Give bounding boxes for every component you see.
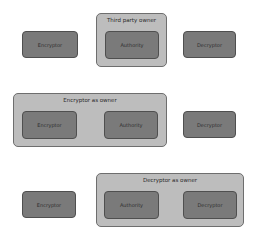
third-party-owner-group: Third party owner Authority — [96, 13, 167, 67]
encryptor-as-owner-group: Encryptor as owner Encryptor Authority — [13, 93, 167, 147]
decryptor-as-owner-group: Decryptor as owner Authority Decryptor — [96, 173, 244, 227]
encryptor-label: Encryptor — [37, 122, 61, 128]
group-title: Encryptor as owner — [14, 97, 166, 103]
encryptor-node: Encryptor — [22, 31, 78, 58]
decryptor-node: Decryptor — [183, 191, 237, 219]
decryptor-node: Decryptor — [183, 31, 236, 58]
authority-node: Authority — [104, 111, 158, 139]
group-title: Third party owner — [97, 17, 166, 23]
decryptor-node: Decryptor — [183, 111, 236, 138]
encryptor-label: Encryptor — [37, 202, 61, 208]
decryptor-label: Decryptor — [197, 122, 222, 128]
decryptor-label: Decryptor — [197, 42, 222, 48]
encryptor-label: Encryptor — [38, 42, 62, 48]
authority-node: Authority — [104, 191, 159, 219]
encryptor-node: Encryptor — [22, 191, 76, 218]
authority-label: Authority — [120, 202, 143, 208]
authority-label: Authority — [120, 42, 143, 48]
encryptor-node: Encryptor — [22, 111, 77, 139]
decryptor-label: Decryptor — [198, 202, 223, 208]
group-title: Decryptor as owner — [97, 177, 243, 183]
authority-label: Authority — [119, 122, 142, 128]
authority-node: Authority — [105, 31, 159, 59]
